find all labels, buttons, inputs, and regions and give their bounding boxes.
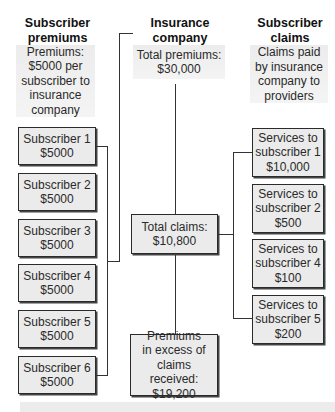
subscriber-label: Subscriber 4 [23, 269, 90, 284]
subscriber-box-2: Subscriber 2 $5000 [18, 173, 96, 211]
excess-line: in excess of [142, 343, 205, 358]
total-premiums-label: Total premiums: [137, 48, 222, 63]
connector [233, 152, 252, 153]
excess-line: claims received: [131, 358, 217, 387]
excess-premiums-box: Premiums in excess of claims received: $… [130, 334, 218, 396]
total-claims-value: $10,800 [153, 234, 196, 249]
subscriber-label: Subscriber 3 [23, 224, 90, 239]
connector [119, 33, 120, 262]
subscriber-box-1: Subscriber 1 $5000 [18, 127, 96, 165]
connector [233, 152, 234, 319]
note-premiums: Premiums: $5000 per subscriber to insura… [16, 45, 95, 117]
services-amount: $200 [275, 327, 302, 342]
services-box-4: Services to subscriber 4 $100 [252, 239, 324, 288]
footer-bar [20, 402, 335, 412]
connector [233, 318, 252, 319]
subscriber-amount: $5000 [40, 146, 73, 161]
header-line: claims [245, 31, 335, 46]
services-box-2: Services to subscriber 2 $500 [252, 184, 324, 233]
subscriber-amount: $5000 [40, 283, 73, 298]
note-line: insurance [21, 88, 90, 103]
note-line: company [21, 103, 90, 118]
note-line: $5000 per [21, 59, 90, 74]
note-claims: Claims paid by insurance company to prov… [250, 45, 328, 103]
note-line: providers [255, 89, 323, 104]
subscriber-label: Subscriber 1 [23, 132, 90, 147]
note-line: subscriber to [21, 74, 90, 89]
subscriber-amount: $5000 [40, 238, 73, 253]
total-claims-label: Total claims: [141, 220, 207, 235]
subscriber-amount: $5000 [40, 192, 73, 207]
subscriber-box-5: Subscriber 5 $5000 [18, 310, 96, 348]
services-amount: $500 [275, 216, 302, 231]
excess-line: Premiums [147, 329, 201, 344]
subscriber-box-6: Subscriber 6 $5000 [18, 356, 96, 394]
note-line: by insurance [255, 60, 323, 75]
services-amount: $100 [275, 271, 302, 286]
header-line: Subscriber [10, 16, 105, 31]
subscriber-label: Subscriber 5 [23, 315, 90, 330]
note-line: Claims paid [255, 45, 323, 60]
header-line: Subscriber [245, 16, 335, 31]
connector [107, 261, 119, 262]
subscriber-amount: $5000 [40, 375, 73, 390]
services-line: subscriber 2 [255, 201, 320, 216]
services-line: subscriber 5 [255, 312, 320, 327]
header-subscriber-premiums: Subscriber premiums [10, 16, 105, 46]
total-claims-box: Total claims: $10,800 [131, 214, 218, 254]
services-line: subscriber 1 [255, 145, 320, 160]
connector [119, 33, 133, 34]
services-line: Services to [258, 187, 317, 202]
total-premiums-value: $30,000 [137, 62, 222, 77]
subscriber-label: Subscriber 2 [23, 178, 90, 193]
connector [96, 146, 107, 147]
header-line: company [135, 31, 225, 46]
header-subscriber-claims: Subscriber claims [245, 16, 335, 46]
services-amount: $10,000 [266, 160, 309, 175]
subscriber-box-3: Subscriber 3 $5000 [18, 219, 96, 257]
total-premiums: Total premiums: $30,000 [133, 45, 225, 79]
header-line: premiums [10, 31, 105, 46]
excess-value: $19,200 [152, 387, 195, 402]
connector [175, 84, 176, 214]
services-box-1: Services to subscriber 1 $10,000 [252, 128, 324, 177]
services-line: Services to [258, 131, 317, 146]
subscriber-amount: $5000 [40, 329, 73, 344]
services-line: subscriber 4 [255, 256, 320, 271]
services-box-5: Services to subscriber 5 $200 [252, 295, 324, 344]
services-line: Services to [258, 242, 317, 257]
connector [175, 255, 176, 334]
subscriber-box-4: Subscriber 4 $5000 [18, 264, 96, 302]
connector [218, 234, 233, 235]
note-line: Premiums: [21, 45, 90, 60]
connector [96, 375, 107, 376]
header-line: Insurance [135, 16, 225, 31]
note-line: company to [255, 74, 323, 89]
services-line: Services to [258, 298, 317, 313]
header-insurance-company: Insurance company [135, 16, 225, 46]
subscriber-label: Subscriber 6 [23, 361, 90, 376]
